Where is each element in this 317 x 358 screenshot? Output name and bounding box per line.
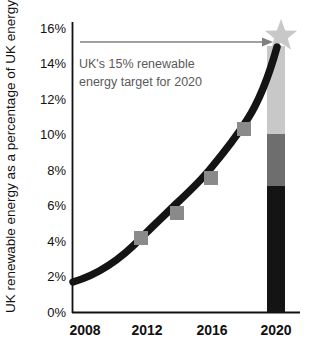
y-tick-label-16: 16% [40,21,66,36]
annotation-line-1: UK's 15% renewable [79,57,195,71]
x-tick-label-2012: 2012 [131,322,162,338]
y-tick-label-14: 14% [40,56,66,71]
x-tick-label-2016: 2016 [196,322,227,338]
y-tick-label-12: 12% [40,92,66,107]
data-point-marker-1 [134,231,148,245]
bar-segment-middle [267,134,285,186]
renewable-energy-line-chart: UK renewable energy as a percentage of U… [0,0,317,358]
data-point-marker-3 [204,171,218,185]
x-tick-label-2020: 2020 [260,322,291,338]
y-tick-label-8: 8% [47,163,66,178]
y-axis-title: UK renewable energy as a percentage of U… [3,0,18,313]
y-tick-label-4: 4% [47,234,66,249]
y-tick-label-0: 0% [47,305,66,320]
x-tick-label-2008: 2008 [69,322,100,338]
bar-segment-lower [267,186,285,312]
y-tick-label-6: 6% [47,198,66,213]
data-point-marker-2 [170,206,184,220]
annotation-line-2: energy target for 2020 [79,75,202,89]
chart-figure: UK renewable energy as a percentage of U… [0,0,317,358]
data-point-marker-4 [237,122,251,136]
y-tick-label-2: 2% [47,269,66,284]
y-tick-label-10: 10% [40,127,66,142]
stacked-bar-2020 [267,46,285,312]
